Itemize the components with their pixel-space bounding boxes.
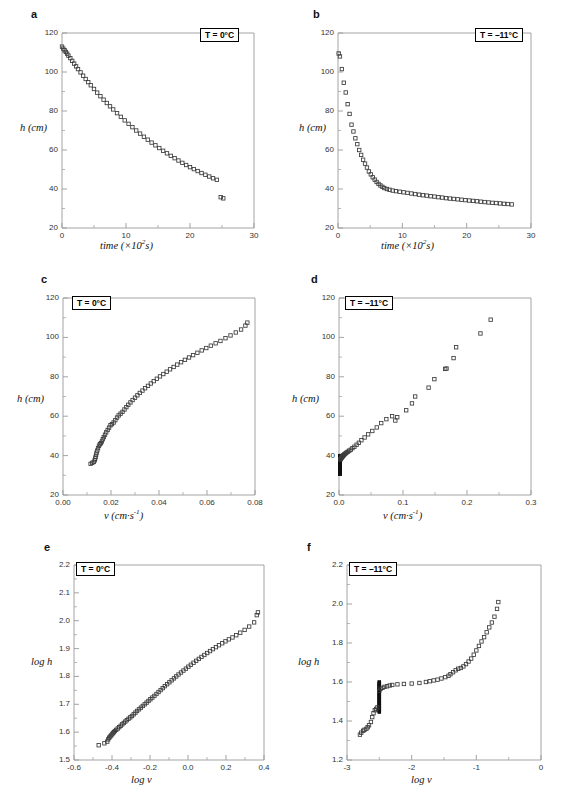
- panel-e-xtick-label: -0.6: [63, 763, 85, 772]
- panel-d-temperature-badge: T = –11°C: [345, 296, 393, 310]
- panel-letter-b: b: [313, 8, 320, 20]
- panel-c-ytick-label: 60: [31, 411, 59, 420]
- panel-b-xtick-label: 20: [456, 231, 478, 240]
- panel-e-ylabel: log h: [31, 656, 52, 667]
- panel-a-ylabel: h (cm): [20, 122, 47, 133]
- panel-d-ytick-label: 20: [307, 490, 335, 499]
- panel-a: a T = 0°C h (cm) time (×102s) 0102030204…: [0, 0, 285, 260]
- panel-a-ytick-label: 120: [30, 28, 58, 37]
- panel-f-xlabel: log v: [411, 774, 432, 785]
- panel-b-temperature-badge: T = –11°C: [475, 28, 523, 42]
- panel-e: e T = 0°C log h log v -0.6-0.4-0.20.00.2…: [0, 535, 285, 801]
- panel-d-xtick-label: 0.0: [328, 498, 350, 507]
- panel-f-temperature-badge: T = –11°C: [349, 562, 397, 576]
- panel-d-ytick-label: 120: [307, 293, 335, 302]
- panel-d-ytick-label: 80: [307, 372, 335, 381]
- panel-f-ytick-label: 1.6: [315, 677, 343, 686]
- panel-c-xtick-label: 0.02: [100, 498, 122, 507]
- panel-b-xtick-label: 0: [327, 231, 349, 240]
- panel-a-xtick-label: 0: [51, 231, 73, 240]
- panel-d-ytick-label: 100: [307, 332, 335, 341]
- panel-letter-f: f: [307, 541, 311, 553]
- panel-letter-a: a: [31, 8, 37, 20]
- panel-c: c T = 0°C h (cm) v (cm·s-1) 0.000.020.04…: [0, 265, 285, 535]
- panel-e-ytick-label: 2.2: [42, 560, 70, 569]
- panel-a-ytick-label: 100: [30, 67, 58, 76]
- panel-e-ytick-label: 1.7: [42, 699, 70, 708]
- panel-b-ylabel: h (cm): [299, 122, 326, 133]
- panel-b-ytick-label: 20: [306, 223, 334, 232]
- panel-e-xtick-label: 0.0: [177, 763, 199, 772]
- panel-d-xtick-label: 0.1: [392, 498, 414, 507]
- panel-f-ytick-label: 1.8: [315, 638, 343, 647]
- panel-d-ylabel: h (cm): [292, 393, 319, 404]
- panel-b-ytick-label: 100: [306, 67, 334, 76]
- panel-letter-c: c: [41, 273, 47, 285]
- panel-b: b T = –11°C h (cm) time (×102s) 01020302…: [283, 0, 563, 260]
- panel-a-temperature-badge: T = 0°C: [200, 28, 239, 42]
- panel-letter-d: d: [311, 273, 318, 285]
- panel-f-ylabel: log h: [298, 656, 319, 667]
- panel-f-xtick-label: -3: [336, 763, 358, 772]
- panel-d-xtick-label: 0.2: [456, 498, 478, 507]
- panel-f: f T = –11°C log h log v -3-2-101.21.41.6…: [283, 535, 563, 801]
- panel-b-ytick-label: 120: [306, 28, 334, 37]
- panel-letter-e: e: [44, 541, 50, 553]
- panel-e-ytick-label: 1.8: [42, 671, 70, 680]
- panel-c-ytick-label: 40: [31, 451, 59, 460]
- panel-e-temperature-badge: T = 0°C: [76, 562, 115, 576]
- panel-b-ytick-label: 60: [306, 145, 334, 154]
- panel-e-ytick-label: 1.9: [42, 644, 70, 653]
- panel-c-temperature-badge: T = 0°C: [72, 296, 111, 310]
- panel-c-xtick-label: 0.08: [244, 498, 266, 507]
- panel-c-ytick-label: 100: [31, 332, 59, 341]
- panel-b-xtick-label: 10: [391, 231, 413, 240]
- panel-c-ytick-label: 120: [31, 293, 59, 302]
- panel-d-xlabel: v (cm·s-1): [383, 508, 422, 521]
- panel-e-xtick-label: -0.4: [101, 763, 123, 772]
- panel-a-xtick-label: 20: [179, 231, 201, 240]
- panel-f-ytick-label: 2.2: [315, 560, 343, 569]
- panel-f-xtick-label: -2: [401, 763, 423, 772]
- panel-b-ytick-label: 40: [306, 184, 334, 193]
- panel-e-xtick-label: 0.2: [215, 763, 237, 772]
- panel-a-ytick-label: 60: [30, 145, 58, 154]
- panel-c-ytick-label: 20: [31, 490, 59, 499]
- panel-c-xtick-label: 0.00: [52, 498, 74, 507]
- panel-c-xtick-label: 0.06: [196, 498, 218, 507]
- panel-f-ytick-label: 1.4: [315, 716, 343, 725]
- panel-c-ylabel: h (cm): [17, 393, 44, 404]
- panel-a-ytick-label: 80: [30, 106, 58, 115]
- panel-a-ytick-label: 20: [30, 223, 58, 232]
- panel-d-ytick-label: 60: [307, 411, 335, 420]
- panel-f-xtick-label: 0: [530, 763, 552, 772]
- panel-f-ytick-label: 1.2: [315, 755, 343, 764]
- panel-c-xlabel: v (cm·s-1): [104, 508, 143, 521]
- panel-e-ytick-label: 2.1: [42, 588, 70, 597]
- panel-e-xlabel: log v: [131, 774, 152, 785]
- panel-f-ytick-label: 2.0: [315, 599, 343, 608]
- panel-e-ytick-label: 1.5: [42, 755, 70, 764]
- panel-d-ytick-label: 40: [307, 451, 335, 460]
- panel-d: d T = –11°C h (cm) v (cm·s-1) 0.00.10.20…: [283, 265, 563, 535]
- panel-c-ytick-label: 80: [31, 372, 59, 381]
- panel-a-ytick-label: 40: [30, 184, 58, 193]
- panel-c-xtick-label: 0.04: [148, 498, 170, 507]
- panel-a-xtick-label: 30: [243, 231, 265, 240]
- panel-e-xtick-label: 0.4: [253, 763, 275, 772]
- panel-e-xtick-label: -0.2: [139, 763, 161, 772]
- panel-b-xtick-label: 30: [520, 231, 542, 240]
- panel-e-ytick-label: 1.6: [42, 727, 70, 736]
- panel-d-xtick-label: 0.3: [520, 498, 542, 507]
- panel-f-xtick-label: -1: [465, 763, 487, 772]
- figure-container: a T = 0°C h (cm) time (×102s) 0102030204…: [0, 0, 563, 801]
- panel-b-ytick-label: 80: [306, 106, 334, 115]
- panel-e-ytick-label: 2.0: [42, 616, 70, 625]
- panel-a-xtick-label: 10: [115, 231, 137, 240]
